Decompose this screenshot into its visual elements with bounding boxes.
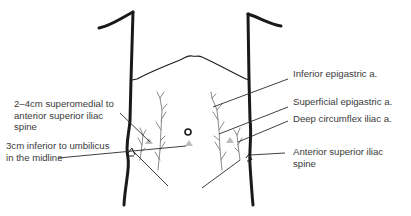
leader-lines [58,79,288,188]
right-flank-line [248,14,253,205]
label-superficial-epigastric: Superficial epigastric a. [293,96,392,108]
umbilicus-marker [185,129,191,135]
leader-superomedial-asis [120,113,150,142]
costal-margin [132,56,250,80]
body-outline [99,12,281,205]
label-inferior-umbilicus: 3cm inferior to umbilicus in the midline [6,140,109,163]
label-line: Superficial epigastric a. [293,96,392,108]
label-deep-circumflex: Deep circumflex iliac a. [293,113,392,125]
label-line: spine [293,158,383,170]
label-line: spine [14,121,114,133]
label-line: Inferior epigastric a. [293,68,377,80]
right-superficial-epigastric-vessel [234,128,242,160]
leader-deep-circumflex [238,121,288,142]
label-superomedial-asis: 2–4cm superomedial to anterior superior … [14,98,114,133]
left-flank-line [124,12,133,205]
label-line: Deep circumflex iliac a. [293,113,392,125]
right-shoulder-line [248,14,281,26]
left-shoulder-line [99,12,133,28]
leader-left-lower-diagonal [132,150,168,186]
leader-asis [250,153,285,155]
label-line: 3cm inferior to umbilicus [6,140,109,152]
label-line: anterior superior iliac [14,110,114,122]
label-asis: Anterior superior iliac spine [293,146,383,169]
midline-port-triangle [185,140,193,146]
port-sites [145,137,234,146]
label-line: Anterior superior iliac [293,146,383,158]
left-inferior-epigastric-vessel [155,92,167,170]
right-inferior-epigastric-vessel [211,92,226,170]
left-superficial-epigastric-vessel [138,128,146,160]
label-inferior-epigastric: Inferior epigastric a. [293,68,377,80]
label-line: in the midline [6,152,109,164]
right-port-triangle [226,137,234,143]
label-line: 2–4cm superomedial to [14,98,114,110]
leader-superficial-epigastric [219,107,288,134]
